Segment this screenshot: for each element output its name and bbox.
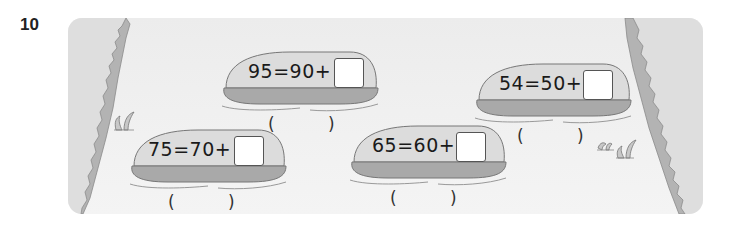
answer-box[interactable] bbox=[334, 58, 364, 88]
paren-open: ( bbox=[168, 192, 175, 212]
paren-close: ) bbox=[228, 192, 235, 212]
right-river-bank bbox=[623, 18, 703, 214]
paren-open: ( bbox=[390, 188, 397, 208]
paren-open: ( bbox=[517, 126, 524, 146]
equation-text: 95=90+ bbox=[248, 60, 331, 82]
answer-box[interactable] bbox=[234, 136, 264, 166]
paren-answer-field[interactable] bbox=[527, 126, 573, 146]
question-number: 10 bbox=[20, 15, 39, 35]
paren-close: ) bbox=[328, 114, 335, 134]
paren-answer-field[interactable] bbox=[178, 192, 224, 212]
paren-close: ) bbox=[450, 188, 457, 208]
paren-close: ) bbox=[577, 126, 584, 146]
equation-text: 65=60+ bbox=[372, 134, 455, 156]
answer-box[interactable] bbox=[456, 132, 486, 162]
answer-box[interactable] bbox=[583, 70, 613, 100]
stepping-stone: 65=60+ ( ) bbox=[348, 120, 508, 210]
paren-answer-field[interactable] bbox=[400, 188, 446, 208]
equation-text: 54=50+ bbox=[499, 72, 582, 94]
stepping-stone: 75=70+ ( ) bbox=[128, 124, 288, 214]
equation-text: 75=70+ bbox=[148, 138, 231, 160]
river-scene-panel: 95=90+ ( ) 54=50+ ( ) 75=70+ ( ) bbox=[68, 18, 703, 214]
